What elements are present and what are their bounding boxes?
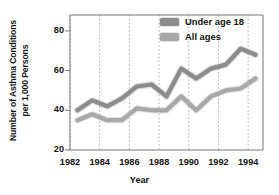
legend-label: Under age 18 [185,16,244,27]
series-band-halo [77,49,255,111]
legend-swatch [160,18,179,26]
legend-label: All ages [185,31,221,42]
plot-area [0,0,279,195]
asthma-line-chart: Number of Asthma Conditions per 1,000 Pe… [0,0,279,195]
legend-swatch [160,33,179,41]
